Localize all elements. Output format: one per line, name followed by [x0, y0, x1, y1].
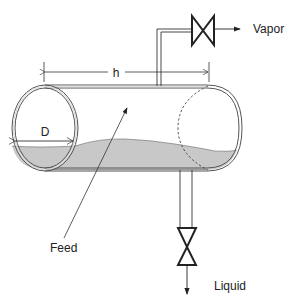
vapor-label: Vapor [253, 22, 284, 36]
liquid-valve-icon [178, 228, 196, 265]
length-label: h [113, 66, 120, 80]
feed-line [64, 108, 127, 238]
liquid-outlet-pipe [180, 170, 192, 228]
vapor-valve-icon [192, 16, 214, 45]
feed-label: Feed [50, 241, 77, 255]
diameter-label: D [41, 125, 50, 139]
diameter-dimension: D [15, 125, 73, 141]
flash-drum-diagram: D h Vapor Liquid Feed [0, 0, 293, 306]
liquid-label: Liquid [214, 279, 246, 293]
length-dimension: h [44, 62, 209, 82]
vapor-outlet-pipe [157, 29, 192, 86]
